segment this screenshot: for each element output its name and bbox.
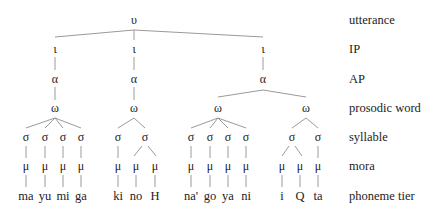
mora-node: μ — [297, 160, 303, 172]
tier-label-phoneme: phoneme tier — [349, 190, 415, 203]
segment: ma — [18, 190, 33, 203]
syllable-node: σ — [315, 131, 321, 143]
mora-node: μ — [207, 160, 213, 172]
mora-node: μ — [152, 160, 158, 172]
tier-label-ap: AP — [349, 73, 365, 86]
syllable-node: σ — [243, 131, 249, 143]
mora-node: μ — [60, 160, 66, 172]
syllable-node: σ — [188, 131, 194, 143]
utterance-node: υ — [131, 14, 137, 26]
mora-node: μ — [188, 160, 194, 172]
syllable-node: σ — [207, 131, 213, 143]
prosodic-word-node: ω — [302, 102, 310, 114]
mora-node: μ — [42, 160, 48, 172]
segment: ga — [75, 190, 87, 203]
mora-node: μ — [315, 160, 321, 172]
segment: ta — [313, 190, 322, 203]
segment: mi — [56, 190, 69, 203]
tier-label-ip: IP — [349, 43, 360, 56]
tier-label-prosodic-word: prosodic word — [349, 102, 421, 115]
prosodic-word-node: ω — [214, 102, 222, 114]
segment: Q — [295, 190, 304, 203]
ip-node: ι — [261, 43, 264, 55]
mora-node: μ — [115, 160, 121, 172]
ip-node: ι — [53, 43, 56, 55]
mora-node: μ — [279, 160, 285, 172]
mora-node: μ — [225, 160, 231, 172]
segment: go — [204, 190, 217, 203]
syllable-node: σ — [60, 131, 66, 143]
ap-node: α — [131, 73, 137, 85]
tier-label-mora: mora — [349, 160, 375, 173]
ap-node: α — [260, 73, 266, 85]
segment: ki — [113, 190, 123, 203]
mora-node: μ — [243, 160, 249, 172]
segment: H — [150, 190, 159, 203]
syllable-node: σ — [115, 131, 121, 143]
prosodic-word-node: ω — [130, 102, 138, 114]
tier-label-syllable: syllable — [349, 131, 388, 144]
mora-node: μ — [23, 160, 29, 172]
syllable-node: σ — [78, 131, 84, 143]
segment: ni — [241, 190, 251, 203]
mora-node: μ — [78, 160, 84, 172]
tier-label-utterance: utterance — [349, 14, 395, 27]
segment: na' — [184, 190, 198, 203]
syllable-node: σ — [225, 131, 231, 143]
mora-node: μ — [133, 160, 139, 172]
prosodic-word-node: ω — [51, 102, 59, 114]
syllable-node: σ — [42, 131, 48, 143]
ip-node: ι — [132, 43, 135, 55]
segment: no — [130, 190, 143, 203]
segment: yu — [39, 190, 52, 203]
syllable-node: σ — [142, 131, 148, 143]
syllable-node: σ — [289, 131, 295, 143]
ap-node: α — [52, 73, 58, 85]
syllable-node: σ — [23, 131, 29, 143]
segment: i — [280, 190, 283, 203]
segment: ya — [222, 190, 234, 203]
